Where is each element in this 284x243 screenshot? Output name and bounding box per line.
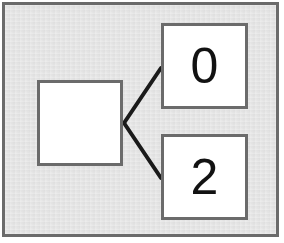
diagram-canvas: 0 2 [0, 0, 284, 243]
node-child-1-label: 2 [191, 152, 219, 202]
node-root[interactable] [37, 80, 123, 166]
node-child-1[interactable]: 2 [161, 134, 248, 220]
node-child-0-label: 0 [191, 41, 219, 91]
node-child-0[interactable]: 0 [161, 23, 248, 109]
